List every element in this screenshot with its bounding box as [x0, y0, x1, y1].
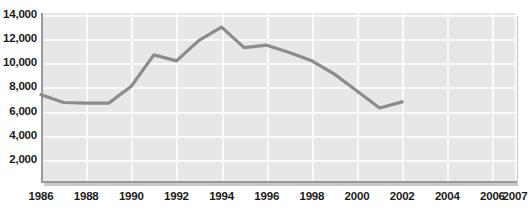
x-tick-label: 1996 — [254, 190, 279, 202]
y-axis-line — [41, 13, 43, 183]
gridline-horizontal — [41, 15, 515, 17]
y-tick-label: 14,000 — [3, 8, 37, 20]
gridline-vertical — [312, 13, 314, 183]
x-tick-label: 1990 — [119, 190, 144, 202]
x-tick-label: 1986 — [29, 190, 54, 202]
y-tick-label: 4,000 — [9, 129, 37, 141]
gridline-vertical — [447, 13, 449, 183]
y-tick-label: 8,000 — [9, 80, 37, 92]
gridline-horizontal — [41, 112, 515, 114]
x-tick-label: 2006 — [480, 190, 505, 202]
y-tick-label: 12,000 — [3, 32, 37, 44]
gridline-vertical — [402, 13, 404, 183]
gridline-horizontal — [41, 39, 515, 41]
gridline-vertical — [131, 13, 133, 183]
x-tick-label: 1994 — [209, 190, 234, 202]
gridline-horizontal — [41, 63, 515, 65]
x-tick-label: 2000 — [345, 190, 370, 202]
gridline-vertical — [222, 13, 224, 183]
x-tick-label: 2002 — [390, 190, 415, 202]
gridline-horizontal — [41, 160, 515, 162]
line-chart: 2,0004,0006,0008,00010,00012,00014,000 1… — [0, 0, 532, 211]
y-tick-label: 10,000 — [3, 56, 37, 68]
gridline-vertical — [176, 13, 178, 183]
gridline-horizontal — [41, 136, 515, 138]
x-tick-label: 2004 — [435, 190, 460, 202]
gridline-vertical — [357, 13, 359, 183]
x-tick-label: 1992 — [164, 190, 189, 202]
gridline-vertical — [515, 13, 517, 183]
x-tick-label: 2007 — [503, 190, 528, 202]
gridline-vertical — [86, 13, 88, 183]
x-tick-label: 1988 — [74, 190, 99, 202]
gridline-horizontal — [41, 87, 515, 89]
y-tick-label: 6,000 — [9, 105, 37, 117]
gridline-vertical — [267, 13, 269, 183]
y-tick-label: 2,000 — [9, 153, 37, 165]
plot-area — [41, 13, 515, 183]
x-axis-line — [41, 181, 517, 183]
y-axis-labels: 2,0004,0006,0008,00010,00012,00014,000 — [0, 0, 37, 211]
x-tick-label: 1998 — [299, 190, 324, 202]
gridline-vertical — [492, 13, 494, 183]
